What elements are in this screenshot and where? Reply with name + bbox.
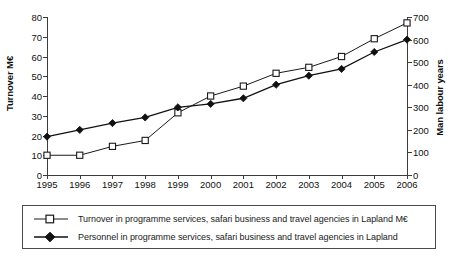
x-tick-label: 1995 xyxy=(36,179,57,190)
data-point-filled-diamond xyxy=(240,95,247,102)
data-point-filled-diamond xyxy=(272,81,279,88)
data-point-filled-diamond xyxy=(109,119,116,126)
x-tick-label: 1997 xyxy=(102,179,123,190)
series-personnel xyxy=(43,36,410,140)
left-tick-label: 30 xyxy=(31,110,42,121)
x-tick-label: 1999 xyxy=(167,179,188,190)
left-tick-label: 50 xyxy=(31,71,42,82)
right-tick-mark xyxy=(408,17,412,18)
open-square-marker-icon xyxy=(33,212,69,226)
data-point-open-square xyxy=(208,93,214,99)
right-tick-mark xyxy=(408,107,412,108)
x-tick-label: 2005 xyxy=(364,179,385,190)
data-point-open-square xyxy=(273,70,279,76)
series-line xyxy=(47,23,407,155)
data-point-open-square xyxy=(306,64,312,70)
legend-label-personnel: Personnel in programme services, safari … xyxy=(78,232,398,242)
right-tick-label: 200 xyxy=(413,124,429,135)
x-tick-label: 2006 xyxy=(396,179,417,190)
right-tick-label: 300 xyxy=(413,102,429,113)
series-turnover xyxy=(44,20,410,159)
legend-item-personnel: Personnel in programme services, safari … xyxy=(33,229,398,245)
right-tick-label: 700 xyxy=(413,12,429,23)
data-point-filled-diamond xyxy=(142,114,149,121)
legend-item-turnover: Turnover in programme services, safari b… xyxy=(33,211,408,227)
right-tick-mark xyxy=(408,130,412,131)
data-point-open-square xyxy=(240,83,246,89)
chart-legend: Turnover in programme services, safari b… xyxy=(22,205,436,249)
data-point-open-square xyxy=(44,152,50,158)
left-tick-label: 60 xyxy=(31,51,42,62)
data-point-filled-diamond xyxy=(43,133,50,140)
x-tick-label: 2002 xyxy=(266,179,287,190)
plot-area: 01020304050607080 0100200300400500600700… xyxy=(47,17,407,175)
data-point-open-square xyxy=(77,152,83,158)
x-tick-label: 1998 xyxy=(135,179,156,190)
data-point-filled-diamond xyxy=(403,36,410,43)
right-tick-mark xyxy=(408,85,412,86)
left-axis-title: Turnover M€ xyxy=(4,44,15,124)
x-tick-label: 2004 xyxy=(331,179,352,190)
x-tick-label: 2001 xyxy=(233,179,254,190)
right-tick-label: 100 xyxy=(413,147,429,158)
data-point-open-square xyxy=(109,143,115,149)
legend-label-turnover: Turnover in programme services, safari b… xyxy=(78,214,408,224)
series-line xyxy=(47,40,407,137)
data-point-filled-diamond xyxy=(207,100,214,107)
data-point-open-square xyxy=(371,36,377,42)
x-tick-label: 2000 xyxy=(200,179,221,190)
left-tick-label: 70 xyxy=(31,31,42,42)
left-tick-label: 40 xyxy=(31,91,42,102)
data-point-filled-diamond xyxy=(76,126,83,133)
right-tick-label: 600 xyxy=(413,34,429,45)
data-point-open-square xyxy=(142,137,148,143)
series-layer xyxy=(47,17,407,175)
right-tick-mark xyxy=(408,152,412,153)
data-point-filled-diamond xyxy=(371,48,378,55)
left-tick-label: 10 xyxy=(31,150,42,161)
right-tick-mark xyxy=(408,62,412,63)
chart-figure: Turnover M€ Man labour years 01020304050… xyxy=(0,0,452,259)
right-tick-mark xyxy=(408,175,412,176)
data-point-filled-diamond xyxy=(338,65,345,72)
right-tick-label: 500 xyxy=(413,57,429,68)
x-axis-line xyxy=(47,175,408,176)
x-tick-label: 2003 xyxy=(298,179,319,190)
filled-diamond-marker-icon xyxy=(33,230,69,244)
data-point-filled-diamond xyxy=(305,72,312,79)
right-tick-label: 400 xyxy=(413,79,429,90)
data-point-open-square xyxy=(338,53,344,59)
left-tick-label: 20 xyxy=(31,130,42,141)
x-tick-label: 1996 xyxy=(69,179,90,190)
left-tick-label: 80 xyxy=(31,12,42,23)
data-point-open-square xyxy=(404,20,410,26)
right-axis-title: Man labour years xyxy=(434,53,445,143)
